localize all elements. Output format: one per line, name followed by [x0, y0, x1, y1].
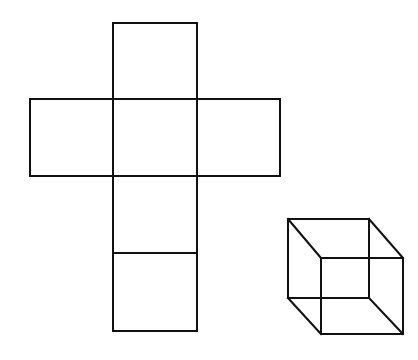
net-square-center — [113, 99, 197, 176]
cube-edge-top-left — [288, 219, 321, 258]
wireframe-cube — [288, 219, 403, 334]
net-square-left — [30, 99, 113, 176]
cube-front-face — [321, 258, 403, 334]
cube-edge-top-right — [369, 219, 403, 258]
diagram-canvas — [0, 0, 418, 360]
net-square-top — [113, 23, 197, 99]
cube-edge-bottom-left — [288, 298, 321, 334]
net-square-bottom — [113, 253, 197, 331]
net-square-right — [197, 99, 280, 176]
cube-net — [30, 23, 280, 331]
net-square-lower-middle — [113, 176, 197, 253]
cube-edge-bottom-right — [369, 298, 403, 334]
